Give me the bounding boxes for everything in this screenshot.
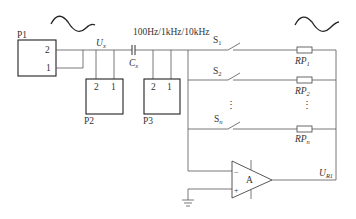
cx-label: Cx (129, 58, 138, 69)
switch-ellipsis: ⋮ (226, 100, 236, 110)
rpn-label: RPn (294, 134, 310, 145)
switch-s2 (228, 73, 240, 80)
ux-label: Ux (96, 38, 106, 49)
resistor-ellipsis: ⋮ (302, 100, 312, 110)
output-sine-wave-icon (295, 17, 339, 31)
output-label: UR1 (319, 168, 333, 179)
resistor-rp1 (297, 47, 312, 53)
p2-pin-1: 1 (111, 82, 116, 92)
sn-label: Sn (214, 114, 223, 125)
op-amp-plus: + (234, 186, 239, 195)
p3-pin-1: 1 (167, 82, 172, 92)
frequency-label: 100Hz/1kHz/10kHz (133, 27, 210, 37)
rp1-label: RP1 (294, 56, 310, 67)
p1-pin-2: 2 (45, 45, 50, 55)
s2-label: S2 (213, 66, 222, 77)
rp2-label: RP2 (294, 86, 311, 97)
p3-block (144, 79, 180, 114)
p1-pin-1: 1 (46, 63, 51, 73)
s1-label: S1 (213, 35, 222, 46)
wire-noninverting-ground (188, 189, 232, 200)
circuit-diagram: P1 2 1 Ux 2 1 P2 Cx 100Hz/1kHz/10kHz 2 1… (0, 0, 356, 219)
p2-pin-2: 2 (94, 82, 99, 92)
p2-label: P2 (84, 116, 94, 126)
p1-label: P1 (17, 30, 27, 40)
op-amp-minus: − (234, 168, 239, 177)
resistor-rpn (297, 126, 312, 132)
p2-block (86, 79, 123, 114)
op-amp-label: A (246, 175, 253, 185)
wire-p1-pin1 (56, 50, 83, 68)
p3-pin-2: 2 (151, 82, 156, 92)
switch-s1 (228, 43, 240, 50)
switch-sn (228, 122, 240, 129)
resistor-rp2 (297, 77, 312, 83)
p3-label: P3 (143, 116, 153, 126)
input-sine-wave-icon (51, 16, 95, 31)
